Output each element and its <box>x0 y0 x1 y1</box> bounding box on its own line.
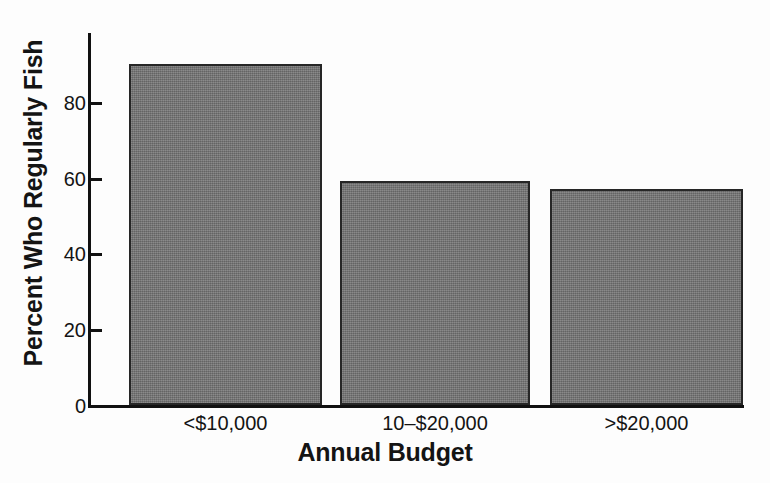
y-tick-label-20: 20 <box>0 320 86 340</box>
y-tick-40 <box>91 253 102 256</box>
bar-chart: Percent Who Regularly Fish 0 20 40 60 80… <box>0 0 770 483</box>
bar-0 <box>129 64 322 405</box>
y-tick-label-60: 60 <box>0 169 86 189</box>
y-tick-80 <box>91 102 102 105</box>
plot-area: 0 20 40 60 80 <$10,000 10–$20,000 >$20,0… <box>0 0 770 483</box>
x-axis-title: Annual Budget <box>0 438 770 467</box>
bar-2 <box>550 189 743 405</box>
x-category-label-2: >$20,000 <box>550 412 743 435</box>
y-tick-label-0: 0 <box>0 396 86 416</box>
bar-1 <box>340 181 530 405</box>
y-tick-20 <box>91 329 102 332</box>
y-tick-label-80: 80 <box>0 93 86 113</box>
y-tick-label-40: 40 <box>0 244 86 264</box>
x-axis-line <box>88 405 744 408</box>
x-category-label-1: 10–$20,000 <box>340 412 530 435</box>
y-axis-line <box>88 33 91 408</box>
y-tick-60 <box>91 178 102 181</box>
x-category-label-0: <$10,000 <box>129 412 322 435</box>
y-tick-0 <box>91 405 102 408</box>
